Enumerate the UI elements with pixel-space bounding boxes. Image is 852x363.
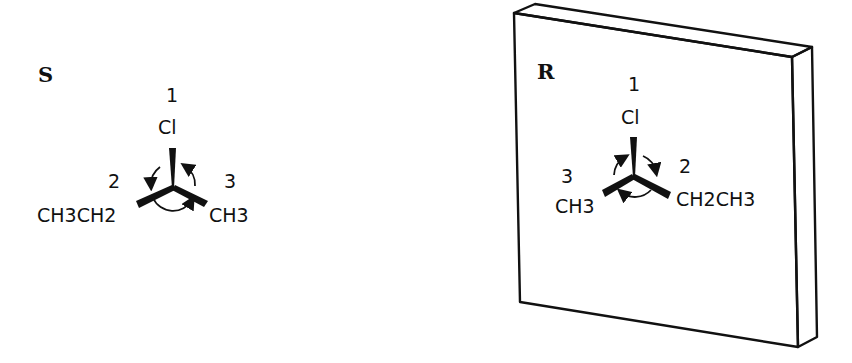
mirror-plane bbox=[514, 4, 817, 347]
priority-3-label: 3 bbox=[561, 165, 573, 187]
bond-wedges bbox=[602, 137, 671, 199]
top-group-label: Cl bbox=[621, 106, 640, 128]
right-group-label: CH2CH3 bbox=[676, 188, 755, 210]
right-molecule: R 1 Cl 3 2 CH3 CH2CH3 bbox=[537, 59, 755, 217]
diagram-canvas: S 1 Cl 2 3 CH3CH2 CH3 R 1 Cl 3 2 CH3 CH2… bbox=[0, 0, 852, 363]
top-group-label: Cl bbox=[158, 116, 177, 138]
right-group-label: CH3 bbox=[209, 204, 249, 226]
priority-2-label: 2 bbox=[679, 155, 691, 177]
priority-1-label: 1 bbox=[166, 84, 178, 106]
bond-wedges bbox=[136, 148, 208, 208]
priority-2-label: 2 bbox=[108, 170, 120, 192]
priority-3-label: 3 bbox=[224, 170, 236, 192]
left-group-label: CH3CH2 bbox=[37, 204, 116, 226]
configuration-label-r: R bbox=[537, 59, 555, 84]
left-group-label: CH3 bbox=[555, 195, 595, 217]
left-molecule: S 1 Cl 2 3 CH3CH2 CH3 bbox=[37, 62, 249, 226]
configuration-label-s: S bbox=[38, 62, 53, 87]
priority-1-label: 1 bbox=[628, 73, 640, 95]
